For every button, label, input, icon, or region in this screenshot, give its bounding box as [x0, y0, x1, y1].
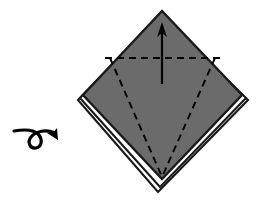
origami-diagram-figure: Origami step: turn the model over — [0, 0, 257, 205]
origami-diagram-canvas — [0, 0, 257, 205]
